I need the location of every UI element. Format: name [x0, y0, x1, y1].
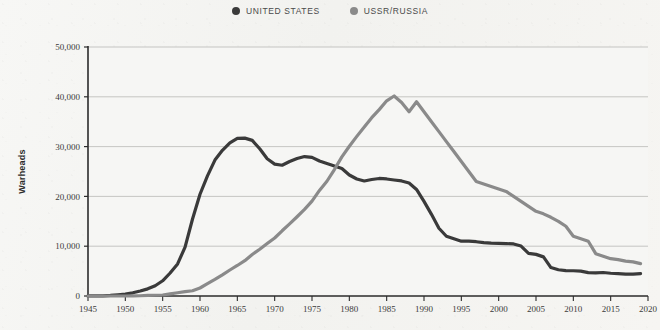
x-tick-label: 1965 [228, 304, 247, 314]
x-tick-label: 1970 [266, 304, 285, 314]
y-axis-label: Warheads [17, 149, 27, 193]
y-axis: 010,00020,00030,00040,00050,000 [55, 42, 88, 301]
y-tick-label: 30,000 [55, 142, 80, 152]
x-tick-label: 1985 [378, 304, 397, 314]
plot-area: 010,00020,00030,00040,00050,000 19451950… [0, 0, 660, 330]
y-tick-label: 40,000 [55, 92, 80, 102]
x-tick-label: 2000 [490, 304, 509, 314]
x-tick-label: 2005 [527, 304, 546, 314]
y-tick-label: 50,000 [55, 42, 80, 52]
x-tick-label: 1980 [340, 304, 359, 314]
x-tick-label: 2020 [639, 304, 658, 314]
x-axis: 1945195019551960196519701975198019851990… [79, 296, 658, 314]
x-tick-label: 1960 [191, 304, 210, 314]
x-tick-label: 2010 [564, 304, 583, 314]
x-tick-label: 1945 [79, 304, 98, 314]
y-tick-label: 20,000 [55, 192, 80, 202]
plot-background [88, 47, 648, 296]
y-axis-title: Warheads [17, 149, 27, 193]
x-tick-label: 1975 [303, 304, 322, 314]
x-tick-label: 2015 [602, 304, 621, 314]
chart-figure: UNITED STATES USSR/RUSSIA 010,00020,0003… [0, 0, 660, 330]
y-tick-label: 10,000 [55, 241, 80, 251]
y-tick-label: 0 [76, 291, 81, 301]
x-tick-label: 1950 [116, 304, 135, 314]
x-tick-label: 1955 [154, 304, 173, 314]
x-tick-label: 1995 [452, 304, 471, 314]
x-tick-label: 1990 [415, 304, 434, 314]
